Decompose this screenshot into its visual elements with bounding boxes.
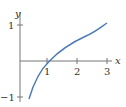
y-tick-label-minus1: −1 <box>0 92 15 103</box>
y-tick-label-1: 1 <box>8 20 14 31</box>
y-axis-label: y <box>14 8 21 19</box>
x-tick-label-2: 2 <box>74 66 80 77</box>
x-tick-label-3: 3 <box>104 66 110 77</box>
x-tick-label-1: 1 <box>44 66 50 77</box>
chart: y x 1 2 3 1 −1 <box>0 0 126 107</box>
x-axis-label: x <box>115 55 121 66</box>
